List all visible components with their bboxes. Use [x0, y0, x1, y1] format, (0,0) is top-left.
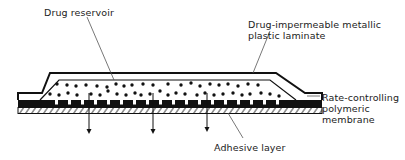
membrane-label-line2: polymeric: [322, 103, 370, 114]
membrane-label-line3: membrane: [322, 114, 375, 125]
laminate-label-line1: Drug-impermeable metallic: [248, 19, 381, 30]
drug-reservoir-label: Drug reservoir: [44, 7, 114, 18]
laminate-label-line2: plastic laminate: [248, 30, 325, 41]
membrane-layer: [18, 100, 322, 108]
drug-particles: [48, 81, 280, 97]
laminate-layer: [18, 73, 322, 100]
adhesive-layer: [18, 108, 322, 114]
adhesive-label: Adhesive layer: [214, 142, 286, 153]
membrane-label-line1: Rate-controlling: [322, 92, 399, 103]
